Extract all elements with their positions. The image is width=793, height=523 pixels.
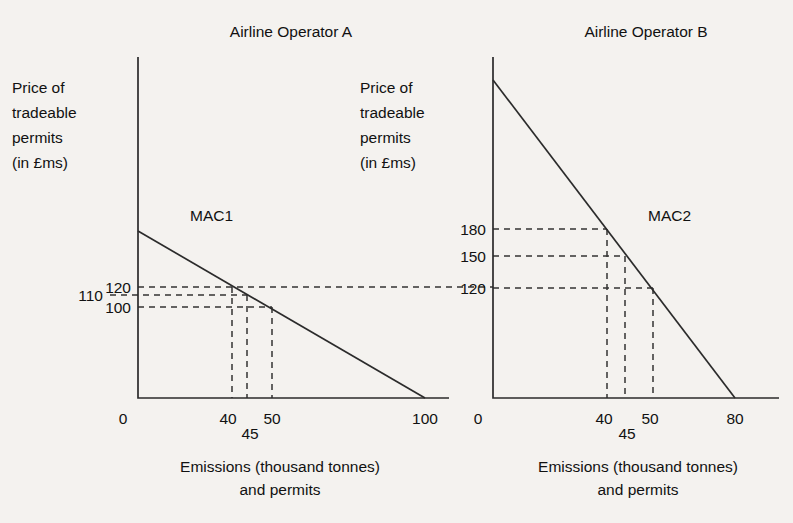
- panel-b-xtick-50: 50: [641, 410, 659, 427]
- panel-b-ytick-180: 180: [460, 221, 486, 238]
- panel-b-curve-label: MAC2: [648, 207, 691, 224]
- panel-a-xtick-50: 50: [263, 410, 281, 427]
- panel-b-xtick-40: 40: [595, 410, 613, 427]
- panel-b-y-caption-line-3: permits: [360, 129, 411, 146]
- panel-b-plot: MAC2 180 150 120 0 40 45 50 80 Emissions…: [460, 57, 779, 498]
- panel-b-axes: [493, 57, 779, 398]
- figure-canvas: Airline Operator A Airline Operator B Pr…: [0, 0, 793, 523]
- panel-a-ytick-110: 110: [78, 287, 103, 304]
- panel-b-ytick-150: 150: [460, 248, 486, 265]
- panel-a-mac1-curve: [138, 231, 425, 398]
- panel-b-y-caption-line-4: (in £ms): [360, 154, 416, 171]
- panel-a-curve-label: MAC1: [190, 207, 233, 224]
- panel-b-xtick-45: 45: [618, 425, 635, 442]
- panel-b-y-caption-line-1: Price of: [360, 79, 413, 96]
- panel-a-y-caption-line-3: permits: [12, 129, 63, 146]
- panel-a-ytick-100: 100: [105, 299, 131, 316]
- panel-a-xtick-100: 100: [412, 410, 438, 427]
- panel-a-xtick-40: 40: [219, 410, 237, 427]
- diagram-svg: Airline Operator A Airline Operator B Pr…: [0, 0, 793, 523]
- panel-b-ytick-120: 120: [460, 280, 486, 297]
- panel-a-title: Airline Operator A: [230, 23, 353, 40]
- panel-b-y-axis-caption: Price of tradeable permits (in £ms): [360, 79, 425, 171]
- panel-b-x-caption-line-2: and permits: [598, 481, 679, 498]
- panel-a-xtick-45: 45: [241, 425, 258, 442]
- panel-b-y-caption-line-2: tradeable: [360, 104, 425, 121]
- panel-b-xtick-80: 80: [726, 410, 744, 427]
- panel-a-x-caption-line-2: and permits: [240, 481, 321, 498]
- panel-b-mac2-curve: [493, 80, 735, 398]
- panel-b-x-caption-line-1: Emissions (thousand tonnes): [538, 458, 738, 475]
- panel-a-y-caption-line-2: tradeable: [12, 104, 77, 121]
- panel-b-title: Airline Operator B: [584, 23, 707, 40]
- panel-a-x-caption-line-1: Emissions (thousand tonnes): [180, 458, 380, 475]
- panel-a-y-caption-line-4: (in £ms): [12, 154, 68, 171]
- panel-a-origin-label: 0: [119, 410, 128, 427]
- panel-a-plot: MAC1 120 110 100 0 40 45 50 100 Emission…: [78, 57, 493, 498]
- panel-a-y-caption-line-1: Price of: [12, 79, 65, 96]
- panel-a-y-axis-caption: Price of tradeable permits (in £ms): [12, 79, 77, 171]
- panel-b-origin-label: 0: [474, 410, 483, 427]
- panel-a-ytick-120: 120: [105, 279, 131, 296]
